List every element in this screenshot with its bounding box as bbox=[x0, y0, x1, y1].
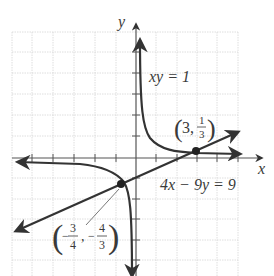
point-2-label: ( − 3 4 , − 4 3 ) bbox=[52, 218, 119, 256]
svg-text:): ) bbox=[207, 114, 216, 143]
intersection-point-2 bbox=[117, 180, 125, 188]
svg-text:4: 4 bbox=[99, 221, 105, 235]
equation-line-label: 4x − 9y = 9 bbox=[160, 176, 236, 194]
x-axis-label: x bbox=[257, 160, 265, 177]
y-axis-label: y bbox=[116, 13, 126, 31]
svg-text:−: − bbox=[62, 229, 69, 243]
svg-text:,: , bbox=[81, 229, 85, 244]
coordinate-graph: y x xy = 1 4x − 9y = 9 ( 3, 1 3 ) ( − 3 … bbox=[0, 0, 274, 276]
svg-text:1: 1 bbox=[199, 114, 205, 126]
svg-text:−: − bbox=[88, 229, 95, 243]
intersection-point-1 bbox=[192, 147, 200, 155]
svg-text:3: 3 bbox=[199, 128, 205, 140]
point-1-label: ( 3, 1 3 ) bbox=[174, 114, 216, 143]
axes bbox=[12, 24, 262, 276]
svg-text:): ) bbox=[108, 218, 119, 256]
svg-text:3: 3 bbox=[99, 238, 105, 252]
svg-text:3: 3 bbox=[70, 221, 76, 235]
equation-hyperbola-label: xy = 1 bbox=[148, 68, 190, 86]
svg-text:4: 4 bbox=[70, 238, 76, 252]
svg-text:3,: 3, bbox=[182, 119, 194, 136]
